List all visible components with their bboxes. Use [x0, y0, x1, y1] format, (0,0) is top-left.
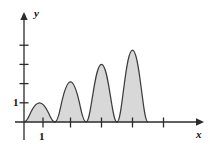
x-axis-label: x [196, 128, 202, 140]
y-axis-label: y [34, 7, 39, 19]
x-tick-label-1: 1 [39, 130, 45, 142]
plot-canvas [0, 0, 210, 151]
shaded-region-under-curve [24, 50, 148, 122]
x-axis-arrow-icon [196, 118, 204, 125]
figure-graph-of-arches: y x 1 1 [0, 0, 210, 151]
y-tick-label-1: 1 [13, 96, 19, 108]
y-axis-arrow-icon [20, 12, 27, 20]
